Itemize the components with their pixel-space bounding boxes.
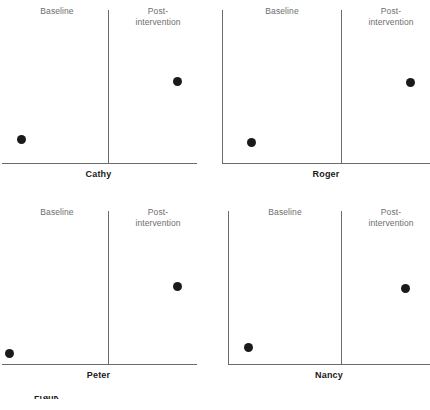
clipped-footer-text: Frank bbox=[34, 396, 59, 401]
x-axis-line-roger bbox=[222, 163, 430, 164]
data-point-nancy-post-intervention bbox=[401, 284, 410, 293]
data-point-peter-post-intervention bbox=[173, 282, 182, 291]
phase-divider-nancy bbox=[341, 211, 342, 364]
panel-title-cathy: Cathy bbox=[0, 169, 197, 179]
plot-area-roger: Baseline Post- intervention bbox=[215, 0, 430, 168]
plot-area-cathy: Baseline Post- intervention bbox=[0, 0, 215, 168]
panel-title-roger: Roger bbox=[222, 169, 430, 179]
panel-nancy: Baseline Post- intervention Nancy bbox=[215, 200, 430, 400]
phase-label-post-intervention-peter: Post- intervention bbox=[122, 207, 194, 229]
phase-label-baseline-roger: Baseline bbox=[249, 6, 315, 17]
panel-cathy: Baseline Post- intervention Cathy bbox=[0, 0, 215, 200]
x-axis-line-nancy bbox=[228, 364, 430, 365]
panel-roger: Baseline Post- intervention Roger bbox=[215, 0, 430, 200]
phase-label-post-intervention-roger: Post- intervention bbox=[355, 6, 427, 28]
y-axis-line-roger bbox=[222, 10, 223, 163]
phase-divider-cathy bbox=[108, 10, 109, 163]
phase-label-baseline-cathy: Baseline bbox=[24, 6, 90, 17]
plot-area-peter: Baseline Post- intervention bbox=[0, 200, 215, 368]
data-point-peter-baseline bbox=[5, 349, 14, 358]
x-axis-line-cathy bbox=[2, 163, 197, 164]
data-point-nancy-baseline bbox=[244, 343, 253, 352]
y-axis-line-nancy bbox=[228, 211, 229, 364]
data-point-cathy-baseline bbox=[17, 135, 26, 144]
multi-panel-scatter-figure: Baseline Post- intervention Cathy Baseli… bbox=[0, 0, 430, 410]
phase-divider-roger bbox=[341, 10, 342, 163]
phase-label-baseline-peter: Baseline bbox=[24, 207, 90, 218]
phase-divider-peter bbox=[108, 211, 109, 364]
phase-label-post-intervention-cathy: Post- intervention bbox=[122, 6, 194, 28]
x-axis-line-peter bbox=[2, 364, 197, 365]
panel-title-peter: Peter bbox=[0, 370, 197, 380]
phase-label-baseline-nancy: Baseline bbox=[252, 207, 318, 218]
data-point-roger-baseline bbox=[247, 138, 256, 147]
clipped-footer-region: Frank bbox=[0, 396, 430, 410]
panel-peter: Baseline Post- intervention Peter bbox=[0, 200, 215, 400]
plot-area-nancy: Baseline Post- intervention bbox=[215, 200, 430, 368]
phase-label-post-intervention-nancy: Post- intervention bbox=[355, 207, 427, 229]
panel-title-nancy: Nancy bbox=[228, 370, 430, 380]
data-point-cathy-post-intervention bbox=[173, 77, 182, 86]
data-point-roger-post-intervention bbox=[406, 78, 415, 87]
